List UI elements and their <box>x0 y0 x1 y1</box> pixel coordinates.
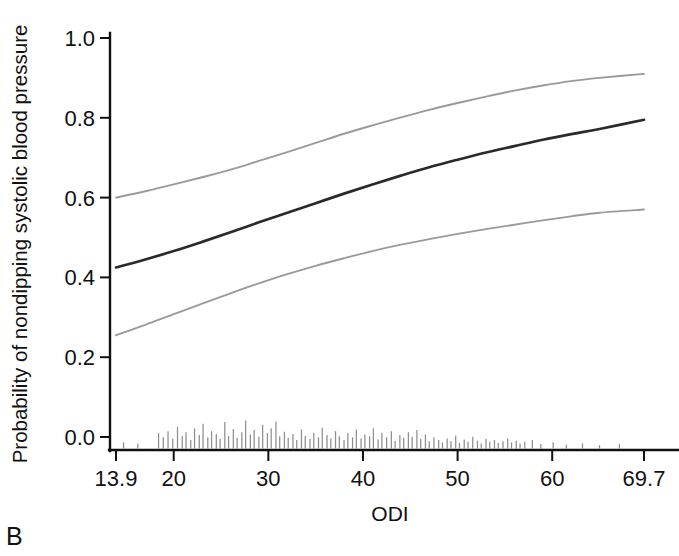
x-tick-label: 50 <box>445 466 469 491</box>
curve-series-group <box>116 74 644 335</box>
x-tick-label: 13.9 <box>95 466 138 491</box>
y-tick-label: 1.0 <box>64 26 95 51</box>
y-axis-tick-labels: 0.00.20.40.60.81.0 <box>64 26 95 450</box>
y-axis-ticks <box>100 38 110 437</box>
y-tick-label: 0.4 <box>64 265 95 290</box>
x-axis-ticks <box>116 450 644 461</box>
observation-density-rug <box>124 421 620 449</box>
y-axis-title: Probability of nondipping systolic blood… <box>8 25 31 464</box>
curve-predicted-probability <box>116 120 644 268</box>
axes <box>109 33 679 451</box>
y-tick-label: 0.0 <box>64 425 95 450</box>
curve-lower-95-confidence-limit <box>116 210 644 336</box>
figure-panel-b: Probability of nondipping systolic blood… <box>0 0 679 556</box>
panel-letter: B <box>6 522 23 551</box>
y-tick-label: 0.6 <box>64 186 95 211</box>
y-tick-label: 0.2 <box>64 345 95 370</box>
x-axis-tick-labels: 13.9203040506069.7 <box>95 466 666 491</box>
x-axis-title: ODI <box>371 502 408 525</box>
x-tick-label: 30 <box>256 466 280 491</box>
probability-vs-odi-chart: Probability of nondipping systolic blood… <box>0 0 679 556</box>
x-tick-label: 20 <box>161 466 185 491</box>
x-tick-label: 69.7 <box>623 466 666 491</box>
x-tick-label: 40 <box>351 466 375 491</box>
y-tick-label: 0.8 <box>64 106 95 131</box>
x-tick-label: 60 <box>540 466 564 491</box>
